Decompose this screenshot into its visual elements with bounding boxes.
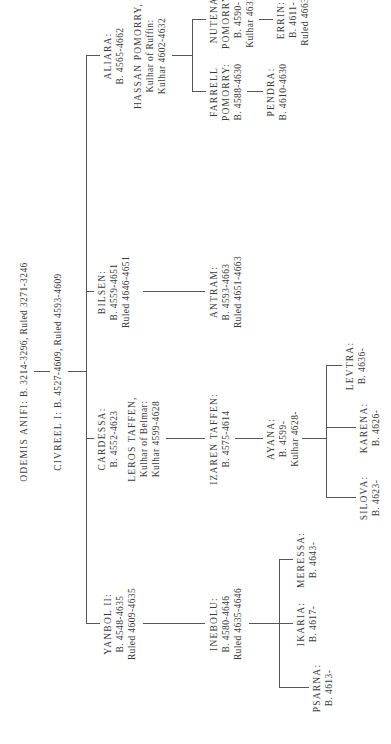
node-levtra: LEVTRA: B. 4636- [344,342,368,391]
connector-inebolu-down [249,623,279,624]
person-dates: B. 4559-4651 [108,256,120,328]
person-reign: Ruled 4635-4646 [232,588,244,660]
person-name-cont: POMORRY: [220,0,232,49]
person-name: PENDRA: [265,63,277,120]
person-reign: Kulhar 4628- [289,411,301,467]
person-dates: B. 4643- [307,532,319,588]
person-name: IZAREN TAFFEN: [208,393,220,485]
node-silova: SILOVA: B. 4623- [358,476,382,521]
person-dates: B. 4527-4609, Ruled 4593-4609 [53,273,63,408]
person-name: IKARIA: [295,602,307,646]
node-errin: ERRIN: B. 4611- Ruled 4663- [275,0,311,46]
connector-bilsen-antram [143,291,205,292]
person-dates: B. 4593-4663 [220,256,232,328]
node-ikaria: IKARIA: B. 4617- [295,602,319,646]
person-name: SILOVA: [358,476,370,521]
person-dates: B. 4617- [307,602,319,646]
person-name: INEBOLU: [208,588,220,660]
connector-aliara-down [172,55,192,56]
connector-bilsen [86,291,94,292]
person-reign: Ruled 4651-4663 [232,256,244,328]
person-reign: Ruled 4646-4651 [120,256,132,328]
connector-psarna [279,687,309,688]
person-dates: B. 4590- [232,0,244,49]
connector-silova [326,497,356,498]
spouse-title: Kulhar of Ruffin: [144,3,156,109]
person-dates: B. 4580-4646 [220,588,232,660]
person-name: ANTRAM: [208,256,220,328]
spouse-dates: Kulhar 4602-4632 [156,3,168,109]
connector-levtra [326,365,342,366]
person-name-cont: POMORRY: [220,63,232,121]
node-bilsen: BILSEN: B. 4559-4651 Ruled 4646-4651 [96,256,132,328]
connector-pomorry-bar [192,20,193,92]
node-antram: ANTRAM: B. 4593-4663 Ruled 4651-4663 [208,256,244,328]
person-name: AYANA: [265,411,277,467]
connector-meressa [279,559,293,560]
person-name: YANBOL II: [102,588,114,660]
node-aliara: ALIARA: B. 4565-4662 HASSAN POMORRY, Kul… [102,3,168,109]
person-dates: B. 4626- [370,403,382,454]
node-inebolu: INEBOLU: B. 4580-4646 Ruled 4635-4646 [208,588,244,660]
connector-karena [326,427,356,428]
spouse-name: LEROS TAFFEN, [126,396,138,481]
person-dates: B. 4599- [277,411,289,467]
person-name: MERESSA: [295,532,307,588]
connector-root-king [34,371,50,372]
person-dates: B. 4613- [323,664,335,713]
person-name: LEVTRA: [344,342,356,391]
node-cardessa: CARDESSA: B. 4552-4623 LEROS TAFFEN, Kul… [96,396,162,481]
person-name: PSARNA: [311,664,323,713]
person-name: KARENA: [358,403,370,454]
connector-ayana-bar [326,366,327,498]
connector-ayana-down [302,438,326,439]
connector-yanbol [86,623,100,624]
person-reign: Kulhar 4632- [244,0,256,49]
connector-cardessa [86,438,94,439]
node-izaren-taffen: IZAREN TAFFEN: B. 4575-4614 [208,393,232,485]
connector-izaren-ayana [235,438,263,439]
person-dates: B. 4565-4662 [114,3,126,109]
connector-king-down [68,371,86,372]
person-name: CARDESSA: [96,396,108,481]
person-name: ALIARA: [102,3,114,109]
family-tree: ODEMIS ANIFI: B. 3214-3296, Ruled 3271-3… [0,0,391,744]
person-dates: B. 4636- [356,342,368,391]
spouse-name: HASSAN POMORRY, [132,3,144,109]
node-yanbol-ii: YANBOL II: B. 4548-4635 Ruled 4609-4635 [102,588,138,660]
connector-cardessa-izaren [166,438,205,439]
connector-nutena-errin [259,19,273,20]
person-dates: B. 4623- [370,476,382,521]
node-nutena-pomorry: NUTENA POMORRY: B. 4590- Kulhar 4632- [208,0,256,49]
person-dates: B. 4610-4630 [277,63,289,120]
connector-yanbol-inebolu [143,623,205,624]
person-dates: B. 4611- [287,0,299,46]
person-name: BILSEN: [96,256,108,328]
spouse-title: Kulhar of Belmar: [138,396,150,481]
node-civreel-i: CIVREEL I: B. 4527-4609, Ruled 4593-4609 [52,273,64,471]
connector-inebolu-bar [279,560,280,688]
connector-aliara [86,55,100,56]
connector-farrell [192,91,206,92]
person-name: CIVREEL I: [53,411,63,471]
spouse-dates: Kulhar 4599-4628 [150,396,162,481]
node-ayana: AYANA: B. 4599- Kulhar 4628- [265,411,301,467]
person-reign: Ruled 4609-4635 [126,588,138,660]
person-name: ERRIN: [275,0,287,46]
node-pendra: PENDRA: B. 4610-4630 [265,63,289,120]
person-dates: B. 4575-4614 [220,393,232,485]
connector-children-bar [86,56,87,624]
connector-nutena [192,19,206,20]
person-name: NUTENA [208,0,220,49]
connector-ikaria [279,623,293,624]
node-odemis-anifi: ODEMIS ANIFI: B. 3214-3296, Ruled 3271-3… [18,262,30,481]
node-meressa: MERESSA: B. 4643- [295,532,319,588]
person-dates: B. 4588-4630 [232,63,244,121]
person-name: FARRELL [208,63,220,121]
node-farrell-pomorry: FARRELL POMORRY: B. 4588-4630 [208,63,244,121]
node-karena: KARENA: B. 4626- [358,403,382,454]
person-dates: B. 3214-3296, Ruled 3271-3246 [19,262,29,397]
connector-farrell-pendra [247,91,263,92]
person-name: ODEMIS ANIFI: [19,400,29,482]
person-dates: B. 4552-4623 [108,396,120,481]
